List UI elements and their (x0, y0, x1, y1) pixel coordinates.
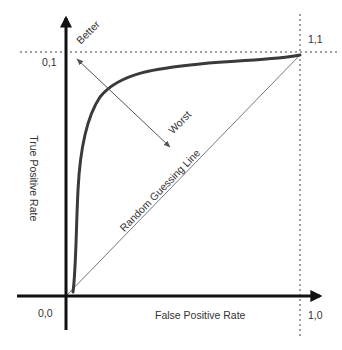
better-worst-arrow (77, 59, 170, 147)
point-label-1-1: 1,1 (308, 34, 323, 45)
point-label-1-0: 1,0 (308, 310, 323, 321)
y-axis-title: True Positive Rate (29, 135, 40, 221)
point-label-0-0: 0,0 (38, 308, 53, 319)
x-axis-title: False Positive Rate (155, 310, 245, 321)
point-label-0-1: 0,1 (42, 57, 57, 68)
random-guessing-line (66, 55, 300, 296)
